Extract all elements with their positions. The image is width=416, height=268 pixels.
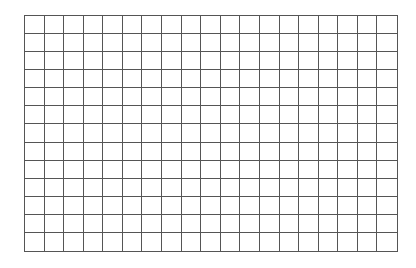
grid-cell [162,16,182,34]
grid-cell [45,215,65,233]
grid-cell [84,179,104,197]
grid-cell [299,143,319,161]
grid-cell [123,179,143,197]
grid-cell [45,197,65,215]
grid-cell [260,179,280,197]
grid-cell [64,161,84,179]
grid-cell [162,215,182,233]
grid-cell [25,233,45,251]
grid-cell [123,106,143,124]
grid-cell [299,179,319,197]
grid-cell [25,70,45,88]
grid-cell [260,215,280,233]
grid-cell [25,143,45,161]
grid-cell [338,106,358,124]
grid-cell [240,124,260,142]
grid-cell [240,233,260,251]
grid-cell [338,179,358,197]
grid-cell [84,88,104,106]
grid-cell [319,106,339,124]
grid-cell [319,143,339,161]
grid-cell [377,179,397,197]
grid-cell [201,16,221,34]
grid-cell [377,215,397,233]
grid-cell [319,197,339,215]
grid-cell [260,52,280,70]
grid-cell [25,34,45,52]
grid-cell [240,179,260,197]
grid-cell [123,233,143,251]
grid-cell [201,70,221,88]
grid-cell [201,179,221,197]
grid-cell [221,124,241,142]
grid-cell [201,161,221,179]
grid-cell [299,88,319,106]
grid-cell [123,34,143,52]
grid-cell [182,106,202,124]
grid-cell [64,52,84,70]
grid-cell [260,34,280,52]
grid-cell [240,70,260,88]
grid-cell [299,16,319,34]
grid-cell [338,161,358,179]
grid-cell [201,88,221,106]
grid-cell [358,106,378,124]
grid-cell [319,215,339,233]
grid-cell [45,34,65,52]
grid-cell [84,143,104,161]
grid-cell [142,197,162,215]
grid-cell [103,70,123,88]
grid-cell [358,16,378,34]
grid-cell [64,233,84,251]
grid-cell [299,197,319,215]
grid-cell [319,179,339,197]
grid-cell [299,70,319,88]
grid-cell [358,143,378,161]
grid-cell [358,52,378,70]
grid-cell [280,233,300,251]
grid-cell [221,88,241,106]
grid-cell [103,124,123,142]
grid-cell [358,179,378,197]
grid-cell [260,233,280,251]
grid-cell [201,233,221,251]
grid-cell [240,197,260,215]
grid-cell [84,106,104,124]
grid-cell [64,34,84,52]
grid-cell [25,215,45,233]
grid-cell [201,197,221,215]
grid-cell [103,52,123,70]
grid-cell [377,88,397,106]
grid-cell [338,124,358,142]
grid-cell [162,106,182,124]
grid-cell [221,143,241,161]
grid-cell [103,143,123,161]
grid-cell [260,70,280,88]
grid-cell [201,52,221,70]
grid-cell [45,52,65,70]
grid-cell [299,124,319,142]
grid-cell [240,106,260,124]
grid-cell [377,143,397,161]
grid-cell [319,88,339,106]
grid-cell [123,124,143,142]
grid-cell [103,161,123,179]
grid-cell [358,70,378,88]
grid-cell [162,143,182,161]
grid-cell [103,106,123,124]
grid-cell [45,161,65,179]
grid-cell [358,233,378,251]
grid-cell [123,197,143,215]
grid-cell [377,34,397,52]
grid-cell [319,34,339,52]
grid-cell [201,124,221,142]
grid-cell [358,88,378,106]
grid-cell [299,233,319,251]
grid-cell [182,233,202,251]
grid-cell [182,215,202,233]
grid-cell [123,161,143,179]
grid-cell [45,143,65,161]
grid-cell [25,161,45,179]
grid-cell [280,16,300,34]
grid-cell [260,161,280,179]
